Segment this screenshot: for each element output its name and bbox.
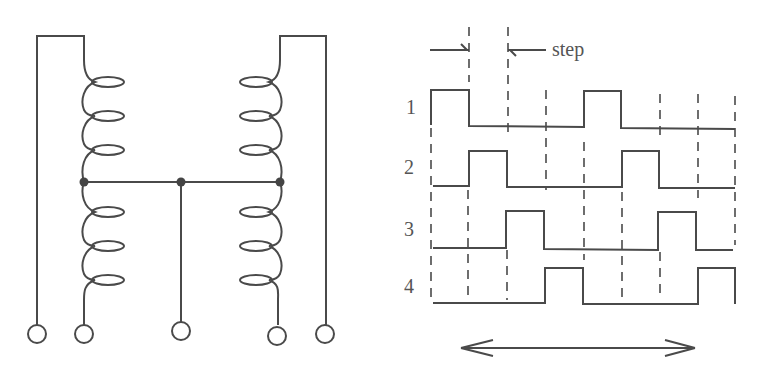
right-coil-lower	[269, 182, 282, 325]
diagram-canvas	[0, 0, 757, 387]
left-coil-loop	[92, 275, 124, 285]
right-outer-wire	[280, 36, 326, 325]
junction-dot	[80, 178, 89, 187]
terminal-5	[316, 325, 334, 343]
phase-label-3: 3	[404, 218, 414, 241]
timing-diagram	[430, 27, 735, 356]
right-coil-loop	[240, 241, 272, 251]
phase-label-2: 2	[404, 156, 414, 179]
right-coil-loop	[240, 275, 272, 285]
left-coil-upper	[82, 60, 95, 182]
left-outer-wire	[37, 36, 84, 325]
phase-3-waveform	[433, 211, 733, 250]
double-arrow	[461, 340, 695, 356]
left-coil-lower	[82, 182, 95, 325]
phase-label-4: 4	[404, 275, 414, 298]
right-coil-loop	[240, 111, 272, 121]
junction-dot	[276, 178, 285, 187]
terminal-1	[28, 325, 46, 343]
left-coil-loop	[92, 241, 124, 251]
winding-schematic	[28, 36, 334, 345]
step-label: step	[552, 38, 584, 61]
phase-4-waveform	[433, 268, 735, 304]
step-arrow-right	[508, 50, 546, 56]
step-arrow-left	[430, 44, 469, 50]
left-coil-loop	[92, 111, 124, 121]
junction-dot	[177, 178, 186, 187]
terminal-2	[75, 325, 93, 343]
right-coil-loop	[240, 145, 272, 155]
terminal-4	[268, 327, 286, 345]
right-coil-upper	[269, 60, 282, 182]
phase-label-1: 1	[406, 96, 416, 119]
terminal-common	[172, 322, 190, 340]
phase-1-waveform	[431, 90, 735, 129]
left-coil-loop	[92, 145, 124, 155]
